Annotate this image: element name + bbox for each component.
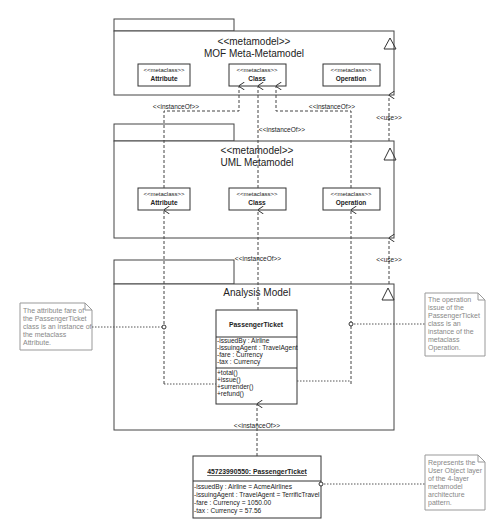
object-note: Represents the User Object layer of the … xyxy=(425,455,485,510)
svg-text:Represents the: Represents the xyxy=(428,459,476,467)
svg-text:-fare : Currency = 1050.00: -fare : Currency = 1050.00 xyxy=(194,499,271,507)
svg-text:class is an: class is an xyxy=(428,320,461,327)
mof-package-tab xyxy=(114,19,234,31)
svg-text:<<instanceOf>>: <<instanceOf>> xyxy=(309,103,355,110)
svg-text:<<instanceOf>>: <<instanceOf>> xyxy=(259,126,305,133)
mof-stereotype: <<metamodel>> xyxy=(218,36,291,47)
svg-text:architecture: architecture xyxy=(428,491,465,498)
svg-text:<<metaclass>>: <<metaclass>> xyxy=(236,191,278,197)
uml-package[interactable]: <<metamodel>> UML Metamodel <<metaclass>… xyxy=(114,124,396,238)
passenger-ticket-object[interactable]: 45723990550: PassengerTicket -issuedBy :… xyxy=(193,456,321,518)
anchor-dot xyxy=(349,322,353,326)
svg-text:-issuingAgent : TravelAgent =: -issuingAgent : TravelAgent = TerrificTr… xyxy=(194,491,320,499)
svg-text:+refund(): +refund() xyxy=(217,390,244,398)
svg-text:the metaclass: the metaclass xyxy=(23,331,67,338)
svg-text:issue of the: issue of the xyxy=(428,304,464,311)
svg-text:-tax : Currency: -tax : Currency xyxy=(217,358,261,366)
svg-text:Attribute: Attribute xyxy=(150,199,177,206)
svg-text:<<metaclass>>: <<metaclass>> xyxy=(236,67,278,73)
analysis-title: Analysis Model xyxy=(223,287,290,298)
svg-text:Operation: Operation xyxy=(336,75,367,83)
uml-package-tab xyxy=(114,124,234,141)
svg-text:of the 4-layer: of the 4-layer xyxy=(428,475,470,483)
mof-package[interactable]: <<metamodel>> MOF Meta-Metamodel <<metac… xyxy=(114,19,396,95)
svg-text:Operation: Operation xyxy=(336,199,367,207)
svg-text:Class: Class xyxy=(248,199,266,206)
svg-text:metaclass: metaclass xyxy=(428,336,460,343)
svg-text:Attribute: Attribute xyxy=(150,75,177,82)
mof-attribute-metaclass[interactable]: <<metaclass>> Attribute xyxy=(138,64,190,86)
svg-text:metamodel: metamodel xyxy=(428,483,463,490)
svg-text:User Object layer: User Object layer xyxy=(428,467,483,475)
passenger-ticket-class[interactable]: PassengerTicket -issuedBy : Airline -iss… xyxy=(216,310,298,404)
anchor-dot xyxy=(319,482,323,486)
svg-text:<<use>>: <<use>> xyxy=(376,114,402,121)
mof-class-metaclass[interactable]: <<metaclass>> Class xyxy=(229,64,286,86)
anchor-dot xyxy=(162,325,166,329)
svg-text:PassengerTicket: PassengerTicket xyxy=(428,312,480,320)
svg-text:<<metaclass>>: <<metaclass>> xyxy=(330,67,372,73)
object-name: 45723990550: PassengerTicket xyxy=(207,468,307,476)
svg-text:-tax : Currency = 57.56: -tax : Currency = 57.56 xyxy=(194,507,262,515)
operation-note: The operation issue of the PassengerTick… xyxy=(425,293,485,356)
svg-text:Operation.: Operation. xyxy=(428,344,461,352)
uml-attribute-metaclass[interactable]: <<metaclass>> Attribute xyxy=(138,188,190,210)
uml-operation-metaclass[interactable]: <<metaclass>> Operation xyxy=(323,188,380,210)
uml-title: UML Metamodel xyxy=(221,157,294,168)
svg-text:<<instanceOf>>: <<instanceOf>> xyxy=(234,422,280,429)
svg-text:The operation: The operation xyxy=(428,296,471,304)
svg-text:The attribute fare of: The attribute fare of xyxy=(23,307,84,314)
diagram-main: <<metamodel>> MOF Meta-Metamodel <<metac… xyxy=(0,0,503,529)
mof-title: MOF Meta-Metamodel xyxy=(204,48,304,59)
svg-text:<<metaclass>>: <<metaclass>> xyxy=(143,67,185,73)
svg-text:<<metaclass>>: <<metaclass>> xyxy=(143,191,185,197)
svg-text:<<metaclass>>: <<metaclass>> xyxy=(330,191,372,197)
analysis-package-tab xyxy=(114,260,234,284)
uml-stereotype: <<metamodel>> xyxy=(221,145,294,156)
svg-text:<<instanceOf>>: <<instanceOf>> xyxy=(235,255,281,262)
svg-text:instance of the: instance of the xyxy=(428,328,474,335)
attribute-note: The attribute fare of the PassengerTicke… xyxy=(20,303,92,350)
svg-text:Class: Class xyxy=(248,75,266,82)
analysis-package[interactable]: Analysis Model PassengerTicket -issuedBy… xyxy=(114,260,394,430)
svg-text:<<use>>: <<use>> xyxy=(376,256,402,263)
svg-text:pattern.: pattern. xyxy=(428,499,452,507)
svg-text:<<instanceOf>>: <<instanceOf>> xyxy=(153,103,199,110)
svg-text:class is an instance of: class is an instance of xyxy=(23,323,92,330)
svg-text:the PassengerTicket: the PassengerTicket xyxy=(23,315,87,323)
mof-operation-metaclass[interactable]: <<metaclass>> Operation xyxy=(323,64,380,86)
svg-text:-issuedBy : Airline = AcmeAirl: -issuedBy : Airline = AcmeAirlines xyxy=(194,483,293,491)
uml-class-metaclass[interactable]: <<metaclass>> Class xyxy=(229,188,286,210)
class-name: PassengerTicket xyxy=(229,321,284,329)
svg-text:Attribute.: Attribute. xyxy=(23,339,51,346)
